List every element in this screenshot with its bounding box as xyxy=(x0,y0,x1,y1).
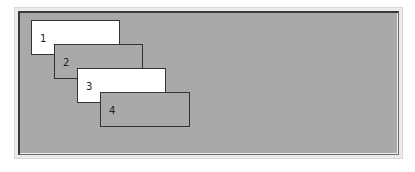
window-label: 4 xyxy=(109,105,115,116)
canvas-area[interactable]: 1 2 3 4 xyxy=(18,11,399,155)
window-label: 2 xyxy=(63,57,69,68)
window-label: 3 xyxy=(86,81,92,92)
frame: 1 2 3 4 xyxy=(14,7,403,159)
window-4[interactable]: 4 xyxy=(100,92,190,127)
window-label: 1 xyxy=(40,33,46,44)
